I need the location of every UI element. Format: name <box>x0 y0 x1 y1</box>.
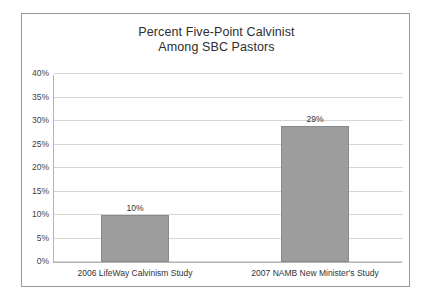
y-axis-tick-label-25: 25% <box>32 139 49 149</box>
y-axis-tick-label-30: 30% <box>32 115 49 125</box>
chart-title-line-2: Among SBC Pastors <box>22 40 411 55</box>
bar-2007-namb[interactable]: 29% 2007 NAMB New Minister's Study <box>281 126 349 262</box>
gridline-35: 35% <box>54 97 403 98</box>
gridline-20: 20% <box>54 167 403 168</box>
bar-value-label-2: 29% <box>306 114 323 124</box>
chart-title: Percent Five-Point Calvinist Among SBC P… <box>22 25 411 55</box>
y-axis-tick-label-40: 40% <box>32 68 49 78</box>
y-axis-tick-label-15: 15% <box>32 186 49 196</box>
gridline-40: 40% <box>54 73 403 74</box>
bar-2006-lifeway[interactable]: 10% 2006 LifeWay Calvinism Study <box>101 215 169 262</box>
plot-area: 0% 5% 10% 15% 20% 25% 30% 35% 40% 10% 20… <box>53 75 402 263</box>
y-axis-tick-label-20: 20% <box>32 162 49 172</box>
gridline-25: 25% <box>54 144 403 145</box>
y-axis-tick-label-0: 0% <box>37 256 49 266</box>
chart-frame: Percent Five-Point Calvinist Among SBC P… <box>21 13 410 287</box>
x-axis-tick-label-2: 2007 NAMB New Minister's Study <box>251 268 378 278</box>
y-axis-tick-label-5: 5% <box>37 233 49 243</box>
x-axis-tick-label-1: 2006 LifeWay Calvinism Study <box>78 268 193 278</box>
y-axis-tick-label-10: 10% <box>32 209 49 219</box>
chart-title-line-1: Percent Five-Point Calvinist <box>22 25 411 40</box>
bar-value-label-1: 10% <box>126 203 143 213</box>
gridline-15: 15% <box>54 191 403 192</box>
y-axis-tick-label-35: 35% <box>32 92 49 102</box>
gridline-30: 30% <box>54 120 403 121</box>
